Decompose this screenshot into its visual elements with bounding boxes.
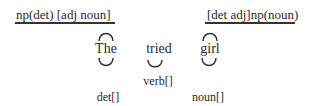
word-tried: tried [142, 41, 176, 56]
left-label-underline [15, 22, 115, 24]
category-noun: noun[] [188, 91, 228, 104]
word-the: The [92, 41, 120, 56]
bottom-arc-tried [147, 60, 163, 70]
right-label-underline [205, 22, 295, 24]
category-verb: verb[] [138, 75, 178, 88]
bottom-arc-girl [201, 58, 217, 70]
right-np-label: [det adj]np(noun) [207, 8, 298, 22]
top-arc-the [98, 29, 114, 41]
bottom-arc-the [98, 58, 114, 70]
left-np-label: np(det) [adj noun] [16, 8, 111, 22]
top-arc-girl [202, 29, 218, 41]
word-girl: girl [196, 41, 224, 56]
category-det: det[] [88, 91, 128, 104]
